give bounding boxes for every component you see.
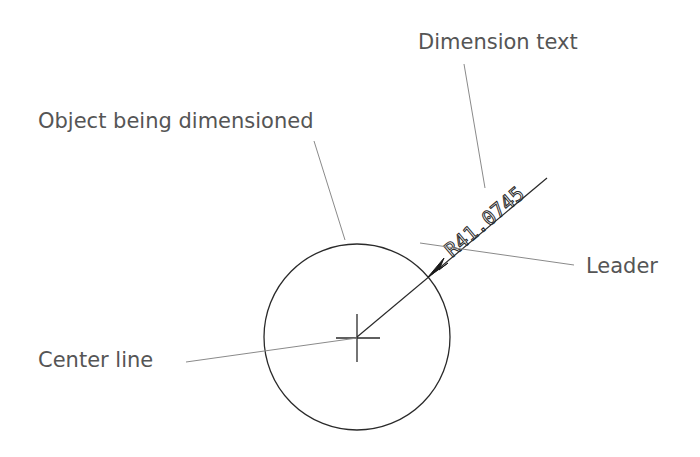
- label-dimension-text: Dimension text: [418, 30, 578, 54]
- dimension-diagram: R41.0745 Dimension text Object being dim…: [0, 0, 700, 457]
- callout-line-center: [186, 338, 357, 362]
- label-object: Object being dimensioned: [38, 109, 314, 133]
- callout-line-dimension-text: [464, 64, 485, 188]
- arrowhead-icon: [428, 258, 448, 277]
- callout-line-object: [314, 141, 345, 240]
- label-leader: Leader: [586, 254, 658, 278]
- center-mark-icon: [336, 314, 380, 362]
- callout-line-leader: [420, 243, 574, 265]
- dimension-value: R41.0745: [440, 182, 529, 262]
- label-center-line: Center line: [38, 348, 153, 372]
- diagram-svg: R41.0745 Dimension text Object being dim…: [0, 0, 700, 457]
